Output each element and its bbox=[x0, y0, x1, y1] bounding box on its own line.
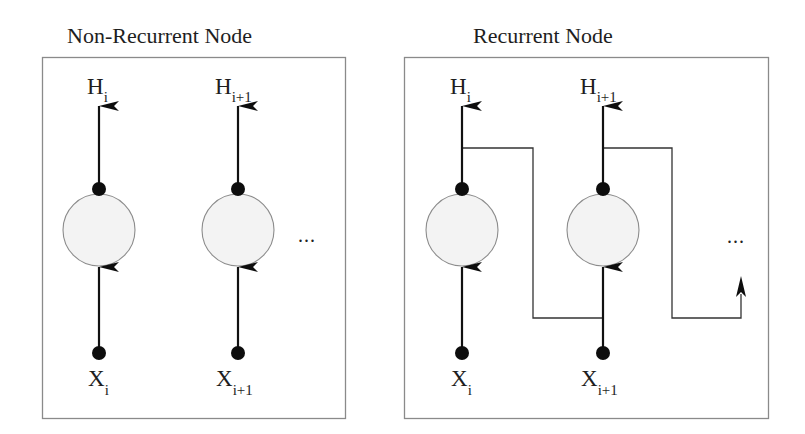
panel-recurrent: Recurrent Node Hi Xi Hi+1 Xi+1 ... bbox=[405, 23, 769, 419]
hidden-node-circle bbox=[202, 194, 274, 266]
output-label-h-i-plus-1: Hi+1 bbox=[580, 74, 617, 105]
panel-title-recurrent: Recurrent Node bbox=[473, 23, 613, 48]
output-dot-icon bbox=[455, 182, 469, 196]
output-dot-icon bbox=[596, 182, 610, 196]
input-label-x-i-plus-1: Xi+1 bbox=[581, 366, 618, 398]
output-dot-icon bbox=[231, 182, 245, 196]
output-label-h-i: Hi bbox=[87, 74, 108, 105]
panel-title-non-recurrent: Non-Recurrent Node bbox=[67, 23, 252, 48]
input-dot-icon bbox=[596, 346, 610, 360]
recurrent-arrow-icon bbox=[736, 276, 746, 297]
input-dot-icon bbox=[231, 346, 245, 360]
node-2-recurrent: Hi+1 Xi+1 bbox=[567, 74, 639, 398]
panel-non-recurrent: Non-Recurrent Node Hi Xi Hi+1 Xi+1 ... bbox=[43, 23, 346, 419]
output-label-h-i: Hi bbox=[450, 74, 471, 105]
hidden-node-circle bbox=[426, 194, 498, 266]
input-dot-icon bbox=[455, 346, 469, 360]
node-2-non-recurrent: Hi+1 Xi+1 bbox=[202, 74, 274, 398]
input-label-x-i-plus-1: Xi+1 bbox=[216, 366, 253, 398]
hidden-node-circle bbox=[63, 194, 135, 266]
input-dot-icon bbox=[92, 346, 106, 360]
output-label-h-i-plus-1: Hi+1 bbox=[215, 74, 252, 105]
node-1-recurrent: Hi Xi bbox=[426, 74, 498, 398]
node-1-non-recurrent: Hi Xi bbox=[63, 74, 135, 398]
hidden-node-circle bbox=[567, 194, 639, 266]
continuation-ellipsis: ... bbox=[298, 224, 316, 246]
input-label-x-i: Xi bbox=[451, 366, 472, 398]
output-dot-icon bbox=[92, 182, 106, 196]
input-label-x-i: Xi bbox=[88, 366, 109, 398]
rnn-comparison-diagram: Non-Recurrent Node Hi Xi Hi+1 Xi+1 ... R… bbox=[0, 0, 805, 434]
continuation-ellipsis: ... bbox=[727, 225, 745, 247]
